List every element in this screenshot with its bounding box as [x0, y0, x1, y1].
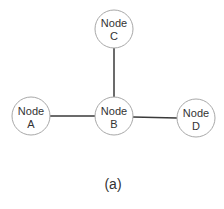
node-d-label-line1: Node — [183, 107, 209, 119]
node-c: Node C — [95, 10, 133, 48]
node-d-label-line2: D — [192, 120, 200, 132]
node-a-label-line2: A — [27, 118, 35, 130]
node-b-label-line1: Node — [101, 105, 127, 117]
node-b: Node B — [95, 97, 133, 135]
node-a: Node A — [12, 97, 50, 135]
node-d: Node D — [177, 99, 215, 137]
node-c-label-line2: C — [110, 30, 118, 42]
node-c-label-line1: Node — [101, 17, 127, 29]
edge-b-d — [133, 117, 177, 118]
figure-caption: (a) — [104, 176, 121, 192]
node-b-label-line2: B — [110, 118, 117, 130]
graph-diagram: Node C Node A Node B Node D (a) — [0, 0, 224, 209]
node-a-label-line1: Node — [18, 105, 44, 117]
